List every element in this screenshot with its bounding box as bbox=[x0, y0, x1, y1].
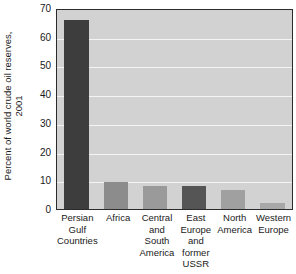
x-axis-label-line: Central bbox=[139, 212, 176, 224]
bar-slot bbox=[57, 10, 96, 209]
bar-slot bbox=[253, 10, 292, 209]
x-axis-label-line: USSR bbox=[177, 258, 214, 270]
bar bbox=[260, 203, 284, 209]
x-axis-label: CentralandSouthAmerica bbox=[138, 212, 177, 258]
x-axis-label-line: Europe bbox=[177, 224, 214, 236]
y-axis-title-line-2: 2001 bbox=[13, 32, 24, 181]
x-axis-label-line: Gulf bbox=[57, 224, 98, 236]
y-tick-label: 20 bbox=[40, 148, 51, 158]
y-tick-label: 60 bbox=[40, 33, 51, 43]
y-tick-label: 40 bbox=[40, 90, 51, 100]
x-axis-label-line: Western bbox=[255, 212, 292, 224]
bar-slot bbox=[96, 10, 135, 209]
bar-series bbox=[57, 10, 292, 209]
x-axis-label: PersianGulfCountries bbox=[56, 212, 99, 247]
x-axis-label-line: East bbox=[177, 212, 214, 224]
y-axis-title: Percent of world crude oil reserves, 200… bbox=[0, 0, 26, 212]
x-axis-label-line: Persian bbox=[57, 212, 98, 224]
bar bbox=[221, 190, 245, 209]
x-axis-label: EastEuropeandformerUSSR bbox=[176, 212, 215, 270]
bar-chart: Percent of world crude oil reserves, 200… bbox=[0, 0, 296, 274]
x-axis-label-line: and bbox=[177, 235, 214, 247]
bar bbox=[182, 186, 206, 209]
x-axis-label-line: America bbox=[139, 247, 176, 259]
x-axis-label-line: Countries bbox=[57, 235, 98, 247]
x-axis-label-line: Africa bbox=[100, 212, 137, 224]
bar-slot bbox=[175, 10, 214, 209]
bar bbox=[104, 182, 128, 209]
y-tick-label: 10 bbox=[40, 176, 51, 186]
x-axis-label-line: former bbox=[177, 247, 214, 259]
x-axis-category-labels: PersianGulfCountriesAfricaCentralandSout… bbox=[56, 212, 293, 274]
x-axis-label: Africa bbox=[99, 212, 138, 224]
x-axis-label: NorthAmerica bbox=[215, 212, 254, 235]
y-tick-label: 0 bbox=[45, 205, 51, 215]
y-axis-title-line-1: Percent of world crude oil reserves, bbox=[2, 32, 13, 181]
bar bbox=[64, 20, 88, 210]
x-axis-label-line: and bbox=[139, 224, 176, 236]
plot-area bbox=[56, 9, 293, 210]
y-tick-label: 70 bbox=[40, 4, 51, 14]
bar-slot bbox=[214, 10, 253, 209]
y-axis-tick-labels: 010203040506070 bbox=[26, 0, 54, 216]
x-axis-label-line: Europe bbox=[255, 224, 292, 236]
x-axis-label-line: South bbox=[139, 235, 176, 247]
x-axis-label-line: America bbox=[216, 224, 253, 236]
bar bbox=[143, 186, 167, 209]
y-tick-label: 30 bbox=[40, 119, 51, 129]
x-axis-label: WesternEurope bbox=[254, 212, 293, 235]
y-tick-label: 50 bbox=[40, 61, 51, 71]
bar-slot bbox=[135, 10, 174, 209]
x-axis-label-line: North bbox=[216, 212, 253, 224]
